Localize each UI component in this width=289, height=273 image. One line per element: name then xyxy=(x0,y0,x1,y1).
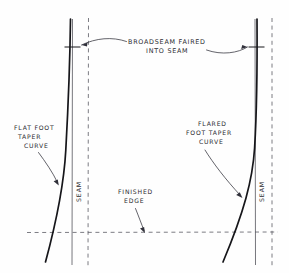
flared-foot-arrowhead xyxy=(236,192,242,198)
seam-label-right: SEAM xyxy=(258,181,265,202)
finished-edge-label-line2: EDGE xyxy=(124,197,144,204)
seam-label-left: SEAM xyxy=(75,181,82,202)
flared-foot-label-line1: FLARED xyxy=(198,120,227,127)
vertical-dashed-guide-left xyxy=(88,18,89,266)
broadseam-label-line1: BROADSEAM FAIRED xyxy=(128,38,206,46)
flat-foot-taper-curve xyxy=(46,19,71,262)
flared-foot-label-line3: CURVE xyxy=(199,138,224,145)
flat-foot-label-line2: TAPER xyxy=(17,133,41,140)
flat-foot-label-line1: FLAT FOOT xyxy=(14,124,54,131)
diagram-canvas: BROADSEAM FAIRED INTO SEAM FLAT FOOT TAP… xyxy=(0,0,289,273)
flared-foot-taper-curve xyxy=(223,19,257,262)
finished-edge-leader xyxy=(136,209,145,231)
vertical-seam-line-left xyxy=(72,19,73,265)
flat-foot-arrowhead xyxy=(54,180,59,186)
flat-foot-label-line3: CURVE xyxy=(24,142,49,149)
horizontal-dashed-finished-edge xyxy=(27,232,278,233)
flared-foot-label-line2: FOOT TAPER xyxy=(186,129,232,136)
broadseam-leader-right xyxy=(207,47,248,53)
flat-foot-leader xyxy=(39,153,58,183)
broadseam-technical-drawing: BROADSEAM FAIRED INTO SEAM FLAT FOOT TAP… xyxy=(0,0,289,273)
finished-edge-label-line1: FINISHED xyxy=(118,188,153,195)
broadseam-label-line2: INTO SEAM xyxy=(146,47,188,55)
flared-foot-leader xyxy=(205,150,241,196)
